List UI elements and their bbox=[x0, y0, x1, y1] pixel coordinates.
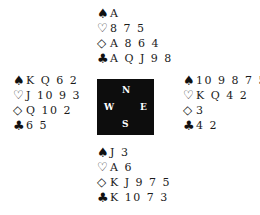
east-spades-row: ♠ 10 9 8 7 5 4 bbox=[183, 73, 260, 88]
diamond-icon: ◇ bbox=[13, 103, 26, 118]
north-diamonds-cards: A 8 6 4 bbox=[110, 36, 160, 51]
west-clubs-row: ♣ 6 5 bbox=[13, 118, 81, 133]
east-clubs-row: ♣ 4 2 bbox=[183, 118, 260, 133]
club-icon: ♣ bbox=[97, 190, 110, 205]
west-hearts-cards: J 10 9 3 bbox=[26, 88, 81, 103]
north-hand: ♠ A ♡ 8 7 5 ◇ A 8 6 4 ♣ A Q J 9 8 bbox=[97, 6, 173, 66]
compass-north-label: N bbox=[122, 85, 130, 95]
heart-icon: ♡ bbox=[97, 160, 110, 175]
compass-south-label: S bbox=[122, 119, 129, 129]
east-hand: ♠ 10 9 8 7 5 4 ♡ K Q 4 2 ◇ 3 ♣ 4 2 bbox=[183, 73, 260, 133]
west-spades-row: ♠ K Q 6 2 bbox=[13, 73, 81, 88]
compass-east-label: E bbox=[140, 102, 147, 112]
diamond-icon: ◇ bbox=[183, 103, 196, 118]
compass-west-label: W bbox=[104, 102, 114, 112]
spade-icon: ♠ bbox=[13, 73, 26, 88]
south-clubs-cards: K 10 7 3 bbox=[110, 190, 169, 205]
east-hearts-cards: K Q 4 2 bbox=[196, 88, 248, 103]
east-diamonds-cards: 3 bbox=[196, 103, 205, 118]
south-hand: ♠ J 3 ♡ A 6 ◇ K J 9 7 5 ♣ K 10 7 3 bbox=[97, 145, 171, 205]
club-icon: ♣ bbox=[97, 51, 110, 66]
heart-icon: ♡ bbox=[97, 21, 110, 36]
west-diamonds-cards: Q 10 2 bbox=[26, 103, 72, 118]
spade-icon: ♠ bbox=[97, 145, 110, 160]
diamond-icon: ◇ bbox=[97, 175, 110, 190]
south-hearts-cards: A 6 bbox=[110, 160, 133, 175]
east-diamonds-row: ◇ 3 bbox=[183, 103, 260, 118]
west-clubs-cards: 6 5 bbox=[26, 118, 48, 133]
north-hearts-row: ♡ 8 7 5 bbox=[97, 21, 173, 36]
compass-box: N W E S bbox=[97, 79, 154, 135]
spade-icon: ♠ bbox=[97, 6, 110, 21]
club-icon: ♣ bbox=[13, 118, 26, 133]
heart-icon: ♡ bbox=[183, 88, 196, 103]
north-spades-row: ♠ A bbox=[97, 6, 173, 21]
west-hearts-row: ♡ J 10 9 3 bbox=[13, 88, 81, 103]
west-spades-cards: K Q 6 2 bbox=[26, 73, 78, 88]
south-diamonds-cards: K J 9 7 5 bbox=[110, 175, 171, 190]
south-clubs-row: ♣ K 10 7 3 bbox=[97, 190, 171, 205]
south-hearts-row: ♡ A 6 bbox=[97, 160, 171, 175]
east-clubs-cards: 4 2 bbox=[196, 118, 218, 133]
heart-icon: ♡ bbox=[13, 88, 26, 103]
south-spades-cards: J 3 bbox=[110, 145, 129, 160]
west-hand: ♠ K Q 6 2 ♡ J 10 9 3 ◇ Q 10 2 ♣ 6 5 bbox=[13, 73, 81, 133]
east-hearts-row: ♡ K Q 4 2 bbox=[183, 88, 260, 103]
south-diamonds-row: ◇ K J 9 7 5 bbox=[97, 175, 171, 190]
spade-icon: ♠ bbox=[183, 73, 196, 88]
west-diamonds-row: ◇ Q 10 2 bbox=[13, 103, 81, 118]
north-clubs-row: ♣ A Q J 9 8 bbox=[97, 51, 173, 66]
east-spades-cards: 10 9 8 7 5 4 bbox=[196, 73, 260, 88]
diamond-icon: ◇ bbox=[97, 36, 110, 51]
north-hearts-cards: 8 7 5 bbox=[110, 21, 146, 36]
north-diamonds-row: ◇ A 8 6 4 bbox=[97, 36, 173, 51]
club-icon: ♣ bbox=[183, 118, 196, 133]
south-spades-row: ♠ J 3 bbox=[97, 145, 171, 160]
north-clubs-cards: A Q J 9 8 bbox=[110, 51, 173, 66]
north-spades-cards: A bbox=[110, 6, 119, 21]
